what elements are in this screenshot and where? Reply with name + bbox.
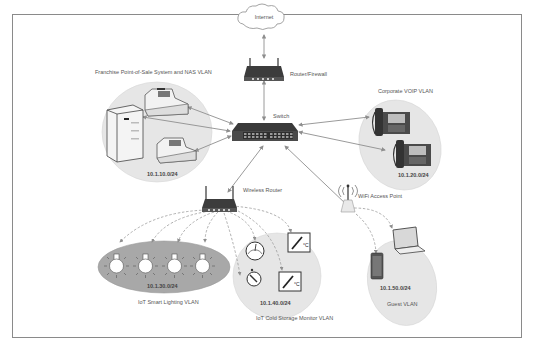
vlan-subnet-cold: 10.1.40.0/24 <box>260 300 292 306</box>
network-diagram: Internet Router/Firewall Switch <box>0 0 535 350</box>
wireless-router-icon <box>202 186 237 212</box>
thermometer-sensor-icon-1: °C <box>288 233 310 252</box>
router-firewall-icon <box>244 58 284 81</box>
switch-label: Switch <box>273 113 289 119</box>
vlan-title-guest: Guest VLAN <box>387 301 418 307</box>
vlan-title-voip: Corporate VOIP VLAN <box>378 88 433 94</box>
router-firewall-label: Router/Firewall <box>290 71 327 77</box>
vlan-title-pos: Franchise Point-of-Sale System and NAS V… <box>95 69 212 75</box>
internet-cloud-icon: Internet <box>238 4 284 30</box>
svg-text:°C: °C <box>303 242 309 248</box>
thermometer-sensor-icon-2: °C <box>279 272 301 291</box>
voip-phone-icon-1 <box>373 108 411 136</box>
switch-icon <box>232 123 298 141</box>
wireless-router-label: Wireless Router <box>243 187 282 193</box>
voip-phone-icon-2 <box>394 140 432 168</box>
gauge-sensor-icon <box>246 242 264 260</box>
vlan-title-lighting-label: IoT Smart Lighting VLAN <box>138 299 199 305</box>
wifi-access-point-label: WiFi Access Point <box>358 193 402 199</box>
nas-server-icon <box>107 105 143 162</box>
internet-label: Internet <box>255 14 274 20</box>
smartphone-icon <box>371 253 383 279</box>
vlan-title-cold: IoT Cold Storage Monitor VLAN <box>256 315 333 321</box>
laptop-icon <box>393 227 425 254</box>
vlan-subnet-lighting: 10.1.30.0/24 <box>147 283 179 289</box>
svg-text:°C: °C <box>294 281 300 287</box>
vlan-subnet-pos: 10.1.10.0/24 <box>147 171 179 177</box>
vlan-subnet-voip: 10.1.20.0/24 <box>398 172 430 178</box>
vlan-subnet-guest: 10.1.50.0/24 <box>380 285 412 291</box>
